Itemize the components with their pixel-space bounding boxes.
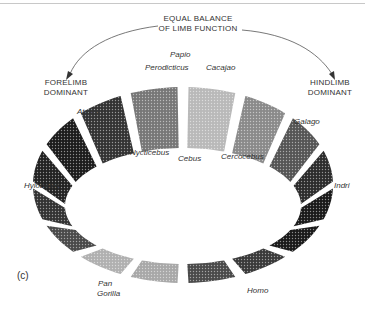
label-cacajao: Cacajao xyxy=(206,63,235,72)
forelimb-dominant-label: FORELIMB DOMINANT xyxy=(36,78,96,98)
ring-segment-halftone xyxy=(131,260,179,283)
ring-segment-halftone xyxy=(187,87,235,152)
hindlimb-line2: DOMINANT xyxy=(300,88,360,98)
ring-segments xyxy=(33,87,333,283)
forelimb-line2: DOMINANT xyxy=(36,88,96,98)
label-galago: Galago xyxy=(294,117,320,126)
label-perodicticus: Perodicticus xyxy=(145,63,189,72)
label-gorilla: Gorilla xyxy=(97,289,120,298)
arrow-to-hindlimb xyxy=(242,30,332,74)
ring-segment-halftone xyxy=(81,249,134,275)
label-hylobates: Hylobates xyxy=(24,181,60,190)
title-line2: OF LIMB FUNCTION xyxy=(148,24,248,34)
label-homo: Homo xyxy=(247,286,268,295)
ring-segment-halftone xyxy=(131,87,179,152)
ring-segment-halftone xyxy=(269,226,319,252)
label-cebus: Cebus xyxy=(178,154,201,163)
title-label: EQUAL BALANCE OF LIMB FUNCTION xyxy=(148,14,248,34)
label-ateles: Ateles xyxy=(77,107,99,116)
hindlimb-line1: HINDLIMB xyxy=(300,78,360,88)
title-line1: EQUAL BALANCE xyxy=(148,14,248,24)
label-indri: Indri xyxy=(334,181,350,190)
hindlimb-dominant-label: HINDLIMB DOMINANT xyxy=(300,78,360,98)
label-pan: Pan xyxy=(98,279,112,288)
ring-segment-halftone xyxy=(232,249,285,275)
forelimb-line1: FORELIMB xyxy=(36,78,96,88)
label-nycticebus: Nycticebus xyxy=(130,148,169,157)
panel-label: (c) xyxy=(17,270,29,281)
ring-segment-halftone xyxy=(47,226,97,252)
ring-segment-halftone xyxy=(187,260,235,283)
label-cercocebus: Cercocebus xyxy=(221,152,264,161)
label-papio: Papio xyxy=(170,50,190,59)
